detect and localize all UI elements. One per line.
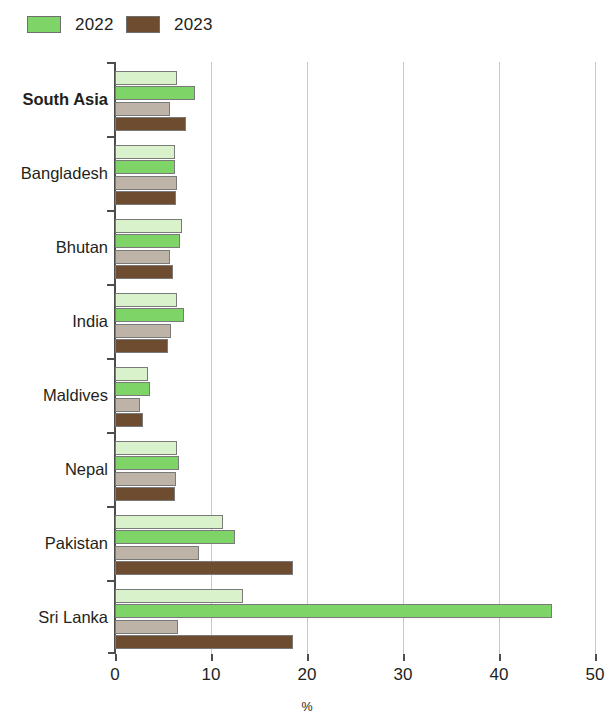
bar-2023-tan: [115, 176, 177, 190]
bar-2022-pale-green: [115, 71, 177, 85]
chart-legend: 2022 2023: [0, 0, 614, 52]
x-tick-label-50: 50: [586, 666, 605, 684]
category-label-nepal: Nepal: [0, 460, 108, 478]
bar-2023-dark-brown: [115, 117, 186, 131]
bar-2023-dark-brown: [115, 487, 175, 501]
x-tick-mark-20: [307, 654, 309, 661]
bar-2023-dark-brown: [115, 339, 168, 353]
category-label-maldives: Maldives: [0, 386, 108, 404]
bar-2022-pale-green: [115, 293, 177, 307]
category-label-bangladesh: Bangladesh: [0, 164, 108, 182]
x-axis-title: %: [0, 700, 614, 714]
legend-label-2022: 2022: [75, 16, 114, 33]
bar-2022-pale-green: [115, 441, 177, 455]
bar-2022-bright-green: [115, 308, 184, 322]
bar-2022-bright-green: [115, 530, 235, 544]
y-tick-mark: [107, 210, 115, 212]
bar-group: [115, 432, 595, 506]
bar-2022-pale-green: [115, 219, 182, 233]
gridline-50: [595, 62, 596, 654]
bar-group: [115, 358, 595, 432]
x-tick-label-40: 40: [490, 666, 509, 684]
x-axis-ticks: 01020304050: [115, 654, 595, 664]
bar-group: [115, 136, 595, 210]
category-label-india: India: [0, 312, 108, 330]
legend-item-2023: 2023: [126, 16, 213, 33]
x-tick-label-0: 0: [110, 666, 119, 684]
legend-swatch-2022: [27, 16, 61, 33]
x-tick-mark-0: [115, 654, 117, 661]
bar-2023-tan: [115, 324, 171, 338]
y-tick-mark: [107, 432, 115, 434]
x-tick-label-10: 10: [202, 666, 221, 684]
bar-2022-bright-green: [115, 604, 552, 618]
x-tick-label-30: 30: [394, 666, 413, 684]
bar-2023-dark-brown: [115, 191, 176, 205]
category-label-sri-lanka: Sri Lanka: [0, 608, 108, 626]
legend-swatch-2023: [126, 16, 160, 33]
bar-2023-dark-brown: [115, 413, 143, 427]
category-label-bhutan: Bhutan: [0, 238, 108, 256]
bar-group: [115, 580, 595, 654]
category-label-pakistan: Pakistan: [0, 534, 108, 552]
x-tick-mark-50: [595, 654, 597, 661]
bar-2023-dark-brown: [115, 265, 173, 279]
x-tick-label-20: 20: [298, 666, 317, 684]
y-tick-mark: [107, 62, 115, 64]
bar-2023-dark-brown: [115, 561, 293, 575]
legend-label-2023: 2023: [174, 16, 213, 33]
bar-2023-tan: [115, 102, 170, 116]
y-tick-mark: [107, 358, 115, 360]
bar-2022-pale-green: [115, 145, 175, 159]
bar-2023-tan: [115, 250, 170, 264]
bar-2023-tan: [115, 472, 176, 486]
plot-area: [115, 62, 595, 654]
bar-2023-tan: [115, 546, 199, 560]
bar-2022-bright-green: [115, 456, 179, 470]
y-tick-mark: [107, 284, 115, 286]
bar-2023-tan: [115, 398, 140, 412]
legend-item-2022: 2022: [27, 16, 114, 33]
bar-group: [115, 210, 595, 284]
y-tick-mark: [107, 136, 115, 138]
bar-2022-pale-green: [115, 589, 243, 603]
x-tick-mark-10: [211, 654, 213, 661]
bar-2022-bright-green: [115, 234, 180, 248]
bar-group: [115, 62, 595, 136]
bar-group: [115, 284, 595, 358]
bar-group: [115, 506, 595, 580]
y-axis-labels: South AsiaBangladeshBhutanIndiaMaldivesN…: [0, 62, 108, 654]
x-tick-mark-40: [499, 654, 501, 661]
x-tick-mark-30: [403, 654, 405, 661]
bar-2022-bright-green: [115, 160, 175, 174]
bar-2022-bright-green: [115, 382, 150, 396]
bar-2022-bright-green: [115, 86, 195, 100]
bar-2023-tan: [115, 620, 178, 634]
y-tick-mark: [107, 580, 115, 582]
y-tick-mark: [107, 506, 115, 508]
bar-2022-pale-green: [115, 515, 223, 529]
bar-2023-dark-brown: [115, 635, 293, 649]
bar-2022-pale-green: [115, 367, 148, 381]
category-label-south-asia: South Asia: [0, 90, 108, 108]
